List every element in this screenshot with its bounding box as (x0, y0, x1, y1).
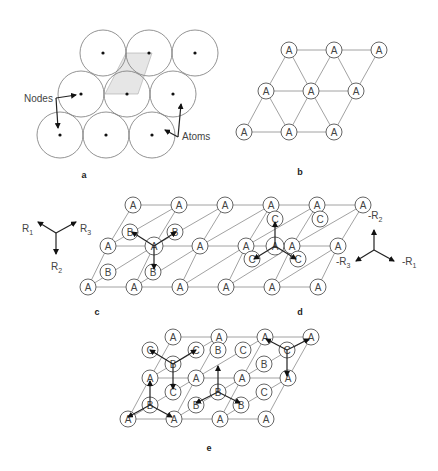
minus-R1-label: -R1 (402, 256, 417, 269)
R1-label: R1 (22, 223, 33, 236)
panel-b-A-layer-lattice: AAAAAAAAA b (236, 42, 387, 177)
C-site: C (235, 342, 251, 358)
atom-label: A (263, 414, 270, 425)
lattice-node (104, 133, 107, 136)
atom-label: A (285, 373, 292, 384)
atom-label: A (308, 332, 315, 343)
lattice-node (125, 92, 128, 95)
atom-label: A (216, 332, 223, 343)
atoms-arrow-1 (165, 130, 178, 137)
atom-label: A (217, 414, 224, 425)
atom-label: A (239, 373, 246, 384)
atom-label: A (331, 45, 338, 56)
atom-label: A (376, 45, 383, 56)
atom-label: C (239, 345, 246, 356)
B-site: B (100, 264, 116, 280)
A-atom: A (371, 42, 387, 58)
atom-label: A (105, 241, 112, 252)
B-site: B (145, 264, 161, 280)
B-site: B (188, 397, 204, 413)
atom-label: A (131, 282, 138, 293)
A-atom: A (348, 83, 364, 99)
close-packed-lattice-figure: Nodes Atoms a AAAAAAAAA b R1 R3 R2 -R2 -… (0, 0, 438, 471)
panel-e-ABC-stacking: AAAAAAAAAAAACCBBCBCBBBCBC e (120, 329, 319, 453)
C-site: C (312, 211, 328, 227)
A-atom: A (100, 238, 116, 254)
A-atom: A (310, 279, 326, 295)
atom-label: A (262, 332, 269, 343)
A-atom: A (126, 279, 142, 295)
atom-label: B (215, 345, 222, 356)
A-atom: A (192, 238, 208, 254)
A-atom: A (217, 197, 233, 213)
A-atom: A (330, 238, 346, 254)
atom-label: A (314, 200, 321, 211)
atoms-arrow-2 (178, 104, 181, 137)
A-atom: A (309, 197, 325, 213)
panel-a-close-packed-spheres: Nodes Atoms a (24, 30, 218, 180)
translation-vectors-minus-R: -R2 -R3 -R1 (336, 210, 417, 269)
lattice-bond (128, 378, 196, 419)
vector-R3 (56, 222, 76, 233)
C-site: C (244, 251, 260, 267)
translation-vectors-R: R1 R3 R2 (22, 222, 91, 274)
atom-label: A (193, 373, 200, 384)
A-atom: A (236, 124, 252, 140)
B-site: B (256, 356, 272, 372)
nodes-label: Nodes (24, 93, 53, 104)
atom-label: B (261, 359, 268, 370)
atom-label: A (171, 414, 178, 425)
A-atom: A (166, 411, 182, 427)
lattice-node (150, 133, 153, 136)
lattice-bond (292, 205, 363, 246)
A-atom: A (212, 411, 228, 427)
atoms-label: Atoms (182, 131, 210, 142)
A-atom: A (263, 197, 279, 213)
atom-label: B (105, 267, 112, 278)
atom-label: B (150, 267, 157, 278)
A-atom: A (326, 42, 342, 58)
A-atom: A (172, 279, 188, 295)
vector-minus-R1 (374, 250, 394, 261)
A-atom: A (280, 370, 296, 386)
A-atom: A (355, 197, 371, 213)
A-atom: A (234, 370, 250, 386)
atom-label: A (286, 45, 293, 56)
A-atom: A (326, 124, 342, 140)
atom-label: A (353, 86, 360, 97)
panel-a-caption: a (81, 170, 87, 180)
atom-label: A (263, 86, 270, 97)
unit-cell-parallelogram (105, 53, 152, 94)
atom-label: A (241, 127, 248, 138)
atom-label: A (223, 282, 230, 293)
atom-label: A (177, 282, 184, 293)
minus-R2-label: -R2 (368, 210, 383, 223)
A-atom: A (218, 279, 234, 295)
atom-label: A (243, 241, 250, 252)
A-atom: A (258, 83, 274, 99)
atom-label: A (269, 282, 276, 293)
lattice-bond (200, 205, 271, 246)
atom-label: C (248, 254, 255, 265)
atom-label: A (176, 200, 183, 211)
A-atom: A (171, 197, 187, 213)
minus-R3-label: -R3 (336, 256, 351, 269)
A-atom: A (258, 411, 274, 427)
A-atom: A (264, 279, 280, 295)
C-site: C (290, 251, 306, 267)
atom-label: A (335, 241, 342, 252)
A-atom: A (303, 83, 319, 99)
lattice-node (147, 51, 150, 54)
R3-label: R3 (80, 223, 91, 236)
A-atom: A (125, 197, 141, 213)
atom-label: A (308, 86, 315, 97)
atom-label: A (289, 241, 296, 252)
B-site: B (233, 397, 249, 413)
atom-label: B (238, 400, 245, 411)
panel-b-caption: b (297, 167, 303, 177)
A-atom: A (281, 42, 297, 58)
lattice-node (193, 51, 196, 54)
lattice-node (171, 92, 174, 95)
atom-label: A (222, 200, 229, 211)
atom-label: A (85, 282, 92, 293)
